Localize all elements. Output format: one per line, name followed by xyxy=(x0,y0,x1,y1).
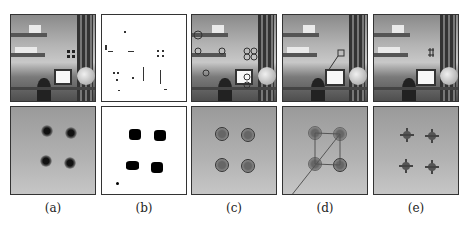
quad-lines xyxy=(283,107,368,195)
cross-marker xyxy=(425,129,439,143)
panel-label-d: (d) xyxy=(282,201,368,215)
panel-a-bottom-closeup xyxy=(10,106,96,195)
circle-detections xyxy=(192,15,277,102)
panel-e-top-scene xyxy=(373,14,459,102)
binary-blob xyxy=(129,129,141,140)
binary-blob xyxy=(154,130,166,141)
detected-circle xyxy=(241,128,255,142)
binary-points xyxy=(102,15,187,102)
monitor xyxy=(54,69,72,85)
marker-blob xyxy=(40,155,52,167)
binary-blob xyxy=(151,162,163,173)
connection-lines xyxy=(283,15,368,102)
panel-c-bottom-closeup xyxy=(191,106,277,195)
globe xyxy=(77,67,95,85)
marker xyxy=(67,55,70,58)
panel-a-top-scene xyxy=(10,14,96,102)
marker xyxy=(72,50,75,53)
shelf xyxy=(11,33,47,37)
detected-circle xyxy=(241,159,255,173)
cross-marker xyxy=(399,159,413,173)
shelf-object xyxy=(29,25,41,33)
cross-markers xyxy=(374,15,459,102)
marker-blob xyxy=(65,127,77,139)
panel-d-top-scene xyxy=(282,14,368,102)
person xyxy=(37,78,51,102)
panel-c-top-scene xyxy=(191,14,277,102)
noise-point xyxy=(116,182,119,185)
shelf-object xyxy=(15,47,37,53)
marker xyxy=(67,50,70,53)
detected-circle xyxy=(215,158,229,172)
marker xyxy=(72,55,75,58)
binary-blob xyxy=(126,161,139,170)
marker-blob xyxy=(41,125,53,137)
cross-marker xyxy=(400,128,414,142)
panel-label-e: (e) xyxy=(373,201,459,215)
panel-e-bottom-closeup xyxy=(373,106,459,195)
detected-circle xyxy=(215,127,229,141)
cross-marker xyxy=(425,160,439,174)
panel-label-c: (c) xyxy=(191,201,277,215)
panel-b-top-binary xyxy=(101,14,187,102)
desk xyxy=(11,87,95,90)
panel-label-a: (a) xyxy=(10,201,96,215)
panel-b-bottom-binary xyxy=(101,106,187,195)
panel-label-b: (b) xyxy=(101,201,187,215)
panel-d-bottom-closeup xyxy=(282,106,368,195)
shelf xyxy=(11,53,45,57)
marker-blob xyxy=(64,157,76,169)
